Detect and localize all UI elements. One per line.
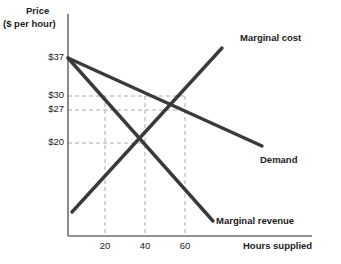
y-axis-title-line2: ($ per hour) (3, 19, 56, 30)
series-line-demand (68, 58, 262, 146)
y-tick-label-30: $30 (24, 90, 64, 101)
price-quantity-chart: Price ($ per hour) $37 $30 $27 $20 20 40… (0, 0, 341, 264)
x-axis-title: Hours supplied (243, 241, 312, 252)
y-tick-label-27: $27 (24, 104, 64, 115)
guide-lines (68, 96, 185, 236)
series-line-marginal-cost (72, 48, 222, 212)
y-axis-title-line1: Price (26, 6, 49, 17)
x-tick-label-60: 60 (171, 241, 199, 252)
series-label-marginal-cost: Marginal cost (240, 33, 301, 44)
y-tick-label-20: $20 (24, 137, 64, 148)
chart-series (68, 48, 262, 221)
x-tick-label-20: 20 (91, 241, 119, 252)
series-label-demand: Demand (260, 155, 297, 166)
series-label-marginal-revenue: Marginal revenue (216, 216, 294, 227)
x-tick-label-40: 40 (131, 241, 159, 252)
y-tick-label-37: $37 (24, 52, 64, 63)
